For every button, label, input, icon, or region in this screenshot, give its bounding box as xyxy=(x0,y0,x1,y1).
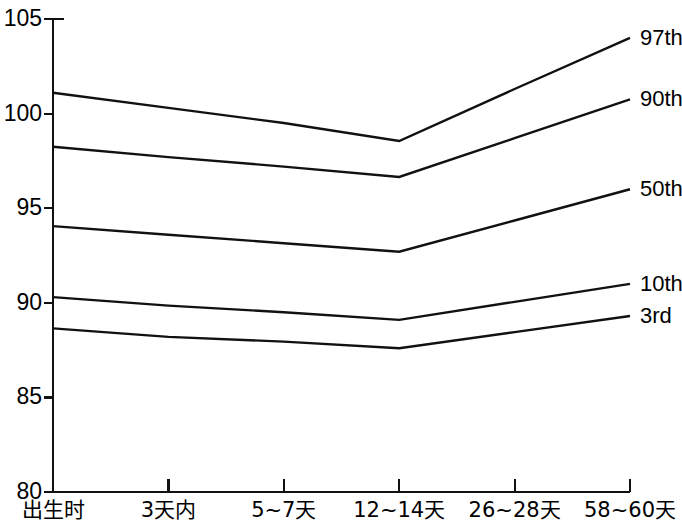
y-tick-label: 85 xyxy=(16,385,42,408)
x-tick-label: 58~60天 xyxy=(584,498,676,522)
chart-plot-area xyxy=(0,0,682,530)
y-tick-label: 105 xyxy=(4,7,42,30)
series-label-90th: 90th xyxy=(640,88,682,110)
y-tick-label: 95 xyxy=(16,196,42,219)
y-tick-label-slot: 105 xyxy=(0,7,42,31)
y-tick-label-slot: 90 xyxy=(0,291,42,315)
series-line-97th xyxy=(53,38,630,141)
y-tick-marks xyxy=(44,19,53,492)
series-lines-group xyxy=(53,38,630,348)
series-label-50th: 50th xyxy=(640,178,682,200)
series-label-10th: 10th xyxy=(640,273,682,295)
y-tick-label: 100 xyxy=(4,102,42,125)
series-line-3rd xyxy=(53,316,630,348)
series-line-90th xyxy=(53,99,630,177)
y-tick-label-slot: 95 xyxy=(0,196,42,220)
y-tick-label-slot: 85 xyxy=(0,385,42,409)
x-tick-label: 12~14天 xyxy=(353,498,445,522)
y-tick-label-slot: 100 xyxy=(0,102,42,126)
growth-percentile-chart: 80859095100105 出生时3天内5~7天12~14天26~28天58~… xyxy=(0,0,682,530)
series-label-97th: 97th xyxy=(640,27,682,49)
x-tick-label: 5~7天 xyxy=(251,498,316,522)
axes-group xyxy=(44,19,630,492)
x-tick-label: 26~28天 xyxy=(469,498,561,522)
x-tick-label: 出生时 xyxy=(22,498,85,522)
x-tick-marks xyxy=(168,479,630,492)
x-tick-label: 3天内 xyxy=(141,498,196,522)
series-line-10th xyxy=(53,284,630,320)
y-tick-label: 90 xyxy=(16,291,42,314)
series-label-3rd: 3rd xyxy=(640,305,672,327)
series-line-50th xyxy=(53,189,630,251)
x-tick-label-slot: 58~60天 xyxy=(560,500,682,526)
